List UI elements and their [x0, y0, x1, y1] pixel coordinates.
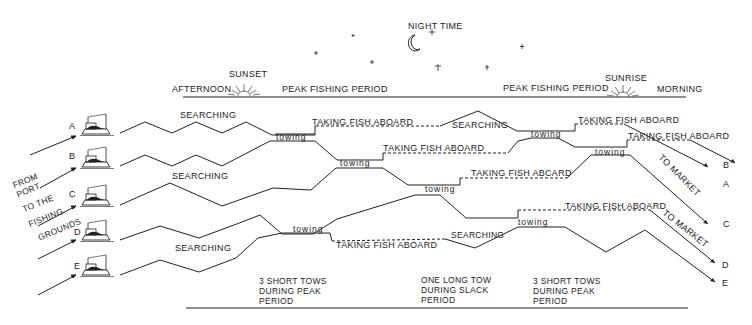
- boat-icon: [80, 220, 114, 242]
- searching-label: SEARCHING: [451, 230, 504, 240]
- svg-text:3 SHORT TOWS: 3 SHORT TOWS: [533, 276, 601, 286]
- path-boat-c: [120, 155, 708, 224]
- end-label-d: D: [722, 260, 729, 270]
- fishing-operations-diagram: NIGHT TIME AFTERNOON SUNSET PEAK FISHING…: [0, 0, 752, 325]
- star-icon: [520, 44, 524, 49]
- searching-label: SEARCHING: [175, 243, 231, 253]
- searching-label: SEARCHING: [452, 120, 508, 130]
- boat-icon: [80, 185, 114, 207]
- from-port-label: FROM PORT TO THE FISHING GROUNDS: [11, 162, 82, 244]
- svg-text:DURING PEAK: DURING PEAK: [533, 286, 595, 296]
- activity-labels: SEARCHING SEARCHING SEARCHING SEARCHING …: [172, 110, 729, 253]
- taking-fish-aboard-label: TAKING FISH ABCARD: [471, 168, 572, 178]
- towing-label: towing: [531, 129, 562, 139]
- boat-c: C: [69, 185, 114, 207]
- taking-fish-aboard-label: TAKING FISH ABOARD: [578, 115, 679, 125]
- boat-icon: [80, 255, 114, 277]
- end-label-e: E: [722, 278, 728, 288]
- star-icon: [485, 65, 489, 70]
- taking-fish-aboard-label: TAKING FISH ABOARD: [383, 143, 484, 153]
- star-icon: [314, 51, 318, 55]
- towing-label: towing: [293, 224, 324, 234]
- towing-label: towing: [340, 158, 371, 168]
- towing-label: towing: [276, 132, 307, 142]
- boat-b: B: [69, 147, 114, 169]
- path-boat-e: [120, 227, 715, 282]
- taking-fish-aboard-label: TAKING FISH ABOARD: [312, 117, 413, 127]
- star-icon: [352, 34, 355, 37]
- end-label-b: B: [723, 160, 729, 170]
- boat-a: A: [69, 114, 114, 136]
- taking-fish-aboard-label: TAKING FISH ABOARD: [628, 131, 729, 141]
- towing-label: towing: [595, 147, 626, 157]
- svg-text:PERIOD: PERIOD: [533, 296, 567, 306]
- morning-label: MORNING: [657, 84, 703, 94]
- to-market-label: TO MARKET: [661, 208, 711, 250]
- to-market-label: TO MARKET: [657, 152, 703, 198]
- boat-a-label: A: [69, 121, 75, 131]
- boat-b-label: B: [69, 151, 75, 161]
- moon-icon: [408, 35, 420, 51]
- taking-fish-aboard-label: TAKING FISH ABOARD: [565, 201, 666, 211]
- svg-text:3 SHORT TOWS: 3 SHORT TOWS: [259, 276, 327, 286]
- peak-fishing-period-right: PEAK FISHING PERIOD: [503, 83, 609, 93]
- boat-icon: [80, 147, 114, 169]
- boat-c-label: C: [69, 189, 76, 199]
- boat-d-label: D: [74, 227, 81, 237]
- end-label-c: C: [723, 219, 730, 229]
- note-slack: ONE LONG TOW DURING SLACK PERIOD: [421, 275, 491, 305]
- bottom-notes: 3 SHORT TOWS DURING PEAK PERIOD ONE LONG…: [186, 275, 688, 308]
- destination-labels: B A C D E: [722, 160, 730, 288]
- sunrise-label: SUNRISE: [605, 73, 647, 83]
- boat-icon: [80, 114, 114, 136]
- sunset-label: SUNSET: [229, 69, 268, 79]
- sunrise-icon: [607, 85, 639, 97]
- searching-label: SEARCHING: [180, 110, 236, 120]
- svg-text:PERIOD: PERIOD: [259, 296, 293, 306]
- boat-e-label: E: [74, 261, 80, 271]
- taking-fish-aboard-label: TAKING FISH ABOARD: [336, 240, 437, 250]
- top-timeline: AFTERNOON SUNSET PEAK FISHING PERIOD PEA…: [172, 69, 703, 97]
- night-time-label: NIGHT TIME: [408, 21, 463, 31]
- star-icon: [435, 64, 441, 71]
- night-sky: NIGHT TIME: [314, 21, 524, 71]
- svg-text:DURING SLACK: DURING SLACK: [421, 285, 488, 295]
- svg-text:ONE LONG TOW: ONE LONG TOW: [421, 275, 491, 285]
- note-first-peak: 3 SHORT TOWS DURING PEAK PERIOD: [259, 276, 327, 306]
- svg-text:PERIOD: PERIOD: [421, 295, 455, 305]
- star-icon: [370, 60, 374, 64]
- towing-label: towing: [425, 184, 456, 194]
- end-label-a: A: [723, 179, 729, 189]
- sunset-icon: [228, 84, 260, 96]
- towing-label: towing: [518, 217, 549, 227]
- svg-text:DURING PEAK: DURING PEAK: [259, 286, 321, 296]
- peak-fishing-period-left: PEAK FISHING PERIOD: [282, 84, 388, 94]
- boat-e: E: [74, 255, 114, 277]
- afternoon-label: AFTERNOON: [172, 84, 231, 94]
- note-second-peak: 3 SHORT TOWS DURING PEAK PERIOD: [533, 276, 601, 306]
- searching-label: SEARCHING: [172, 171, 228, 181]
